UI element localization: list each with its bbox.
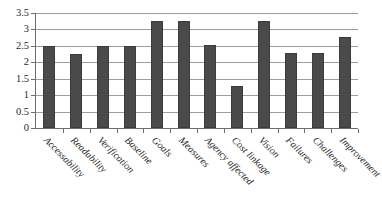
- bar-slot: [90, 13, 117, 128]
- y-axis-tick-label: 2: [0, 57, 29, 68]
- bar-slot: [331, 13, 358, 128]
- x-axis-category-label: Improvement: [337, 135, 381, 179]
- y-axis-tick-label: 1: [0, 90, 29, 101]
- y-axis-tick-labels: 00.511.522.533.5: [0, 13, 29, 128]
- x-axis-label-slot: Improvement: [331, 133, 358, 203]
- y-axis-tick-label: 2.5: [0, 41, 29, 52]
- bar[interactable]: [151, 21, 163, 128]
- x-axis-category-labels: AccessabilityReadabilityVerificationBase…: [36, 133, 358, 205]
- bar-slot: [278, 13, 305, 128]
- bar[interactable]: [70, 54, 82, 128]
- bar-slot: [224, 13, 251, 128]
- bar[interactable]: [339, 37, 351, 128]
- x-axis-tick: [358, 129, 359, 133]
- x-axis-label-slot: Readability: [63, 133, 90, 203]
- y-axis-tick-label: 3: [0, 24, 29, 35]
- x-axis-label-slot: Vision: [251, 133, 278, 203]
- x-axis-label-slot: Goals: [143, 133, 170, 203]
- x-axis-label-slot: Verification: [90, 133, 117, 203]
- y-axis-tick-label: 1.5: [0, 73, 29, 84]
- x-axis-label-slot: Measures: [170, 133, 197, 203]
- bar[interactable]: [312, 53, 324, 128]
- bar-slot: [170, 13, 197, 128]
- bar[interactable]: [43, 46, 55, 128]
- bar-slot: [117, 13, 144, 128]
- bar[interactable]: [204, 45, 216, 128]
- bar[interactable]: [124, 46, 136, 128]
- x-axis-label-slot: Baseline: [117, 133, 144, 203]
- bar-slot: [143, 13, 170, 128]
- y-axis-tick-label: 0: [0, 123, 29, 134]
- bar[interactable]: [178, 21, 190, 128]
- bar[interactable]: [258, 21, 270, 128]
- bar-slot: [197, 13, 224, 128]
- x-axis-label-slot: Accessability: [36, 133, 63, 203]
- bar[interactable]: [231, 86, 243, 128]
- bar-slot: [63, 13, 90, 128]
- bar-slot: [304, 13, 331, 128]
- y-axis-tick-label: 0.5: [0, 106, 29, 117]
- y-axis-tick-label: 3.5: [0, 8, 29, 19]
- x-axis-label-slot: Challenges: [304, 133, 331, 203]
- bar-slot: [36, 13, 63, 128]
- x-axis-label-slot: Agency affected: [197, 133, 224, 203]
- bar[interactable]: [285, 53, 297, 128]
- bar[interactable]: [97, 46, 109, 128]
- x-axis-label-slot: Failures: [278, 133, 305, 203]
- bar-series: [36, 13, 358, 128]
- x-axis-label-slot: Cost linkage: [224, 133, 251, 203]
- bar-slot: [251, 13, 278, 128]
